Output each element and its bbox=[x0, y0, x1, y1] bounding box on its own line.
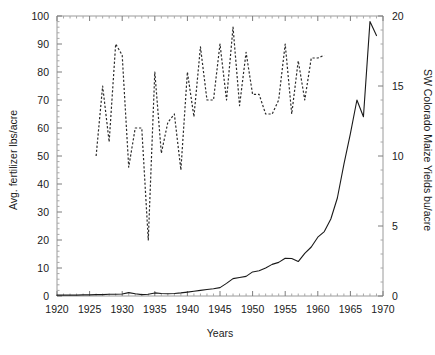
y-axis-right-ticks bbox=[378, 16, 383, 296]
y-tick-label: 10 bbox=[37, 262, 49, 274]
y-axis-left-tick-labels: 0102030405060708090100 bbox=[31, 10, 49, 302]
x-tick-label: 1970 bbox=[371, 303, 395, 315]
y2-tick-label: 10 bbox=[392, 150, 404, 162]
x-tick-label: 1955 bbox=[274, 303, 298, 315]
x-tick-label: 1925 bbox=[78, 303, 102, 315]
y-tick-label: 90 bbox=[37, 38, 49, 50]
x-axis-ticks bbox=[57, 16, 383, 296]
y-tick-label: 80 bbox=[37, 66, 49, 78]
x-axis-tick-labels: 1920192519301935194019451950195519601965… bbox=[45, 303, 395, 315]
y-axis-left-title: Avg. fertilizer lbs/acre bbox=[7, 110, 19, 210]
x-tick-label: 1935 bbox=[143, 303, 167, 315]
series-line-maize-yields bbox=[96, 27, 324, 240]
y-tick-label: 60 bbox=[37, 122, 49, 134]
x-tick-label: 1960 bbox=[306, 303, 330, 315]
y2-tick-label: 5 bbox=[392, 220, 398, 232]
y-axis-right-title: SW Colorado Maize Yields bu/acre bbox=[422, 69, 434, 231]
plot-frame bbox=[57, 16, 383, 296]
x-tick-label: 1945 bbox=[208, 303, 232, 315]
x-axis-title: Years bbox=[207, 327, 233, 339]
x-tick-label: 1920 bbox=[45, 303, 69, 315]
y-tick-label: 20 bbox=[37, 234, 49, 246]
y2-tick-label: 20 bbox=[392, 10, 404, 22]
chart-figure: 1920192519301935194019451950195519601965… bbox=[0, 0, 435, 355]
y2-tick-label: 0 bbox=[392, 290, 398, 302]
y-tick-label: 100 bbox=[31, 10, 49, 22]
x-tick-label: 1930 bbox=[111, 303, 135, 315]
x-tick-label: 1950 bbox=[241, 303, 265, 315]
y-axis-left-ticks bbox=[57, 16, 62, 296]
y2-tick-label: 15 bbox=[392, 80, 404, 92]
chart-canvas: 1920192519301935194019451950195519601965… bbox=[0, 0, 435, 355]
y-tick-label: 50 bbox=[37, 150, 49, 162]
y-tick-label: 70 bbox=[37, 94, 49, 106]
y-tick-label: 40 bbox=[37, 178, 49, 190]
x-tick-label: 1965 bbox=[339, 303, 363, 315]
series-layer bbox=[57, 22, 376, 296]
series-line-fertilizer bbox=[57, 22, 376, 296]
y-tick-label: 0 bbox=[43, 290, 49, 302]
y-tick-label: 30 bbox=[37, 206, 49, 218]
x-tick-label: 1940 bbox=[176, 303, 200, 315]
y-axis-right-tick-labels: 05101520 bbox=[392, 10, 404, 302]
